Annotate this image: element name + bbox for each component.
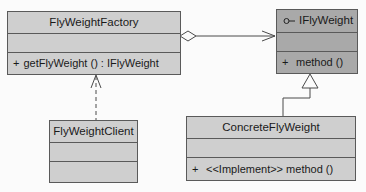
operation-signature: method () [296,57,343,68]
visibility: + [282,57,296,68]
interface-iflyweight[interactable]: IFlyWeight + method () [276,9,358,74]
class-flyweight-client[interactable]: FlyWeightClient [49,120,138,183]
operation: + getFlyWeight () : IFlyWeight [8,53,180,74]
class-flyweight-factory[interactable]: FlyWeightFactory + getFlyWeight () : IFl… [7,11,181,75]
visibility: + [192,164,206,175]
interface-lollipop-icon [283,17,295,25]
aggregation-connector [180,31,275,41]
operation-signature: getFlyWeight () : IFlyWeight [23,58,158,69]
operation: + <<Implement>> method () [187,158,355,180]
class-name: FlyWeightFactory [8,12,180,34]
attributes-compartment [277,33,357,52]
aggregation-diamond-icon [180,31,196,41]
generalization-triangle-icon [302,74,318,88]
operations-compartment [50,162,137,182]
visibility: + [13,58,19,69]
generalization-connector [283,74,318,116]
interface-name: IFlyWeight [299,15,353,27]
attributes-compartment [8,34,180,53]
operation: + method () [277,52,357,73]
class-name: FlyWeightClient [50,121,137,143]
class-name: ConcreteFlyWeight [187,117,355,139]
interface-name-row: IFlyWeight [277,10,357,33]
operation-signature: <<Implement>> method () [206,164,333,175]
class-concrete-flyweight[interactable]: ConcreteFlyWeight + <<Implement>> method… [186,116,356,181]
attributes-compartment [50,143,137,162]
dependency-connector [91,75,101,120]
attributes-compartment [187,139,355,158]
